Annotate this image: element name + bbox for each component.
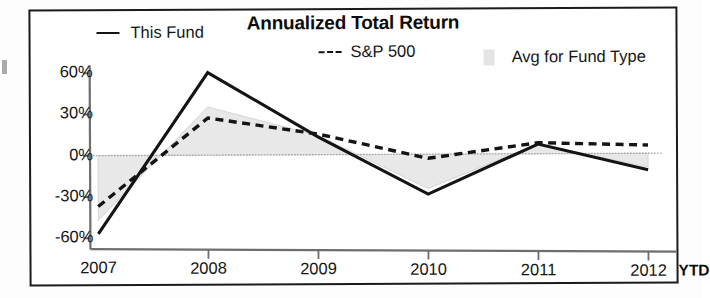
y-tick-label: 60% [60,62,93,81]
y-tick-label: -60% [55,227,94,246]
chart-frame: Annualized Total Return This Fund S&P 50… [28,7,678,287]
y-tick-label: 30% [60,103,93,122]
y-tick-label: -30% [55,186,94,205]
plot-area: 60%30%0%-30%-60% 20072008200920102011201… [30,9,680,289]
x-tick-label: 2010 [410,260,447,279]
x-tick-label: 2007 [80,258,117,277]
y-tick-label: 0% [69,145,93,164]
page-edge-artifact [2,60,7,74]
x-axis-ytd-label: YTD [679,261,710,279]
x-tick-label: 2012 [630,261,667,280]
x-tick-label: 2008 [190,259,227,278]
x-tick-label: 2009 [300,259,337,278]
chart-plot-svg [30,9,680,289]
x-tick-label: 2011 [521,260,557,279]
